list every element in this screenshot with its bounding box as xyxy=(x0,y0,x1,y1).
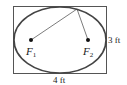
focal-line-1 xyxy=(31,9,77,40)
focus-label-2: F2 xyxy=(82,45,94,59)
focus-point-1 xyxy=(29,38,33,42)
focus-point-2 xyxy=(86,38,90,42)
ellipse xyxy=(14,7,106,73)
width-label: 4 ft xyxy=(53,75,66,85)
height-label: 3 ft xyxy=(108,35,121,45)
ellipse-diagram: F1 F2 3 ft 4 ft xyxy=(0,0,127,85)
focus-label-1: F1 xyxy=(25,45,37,59)
